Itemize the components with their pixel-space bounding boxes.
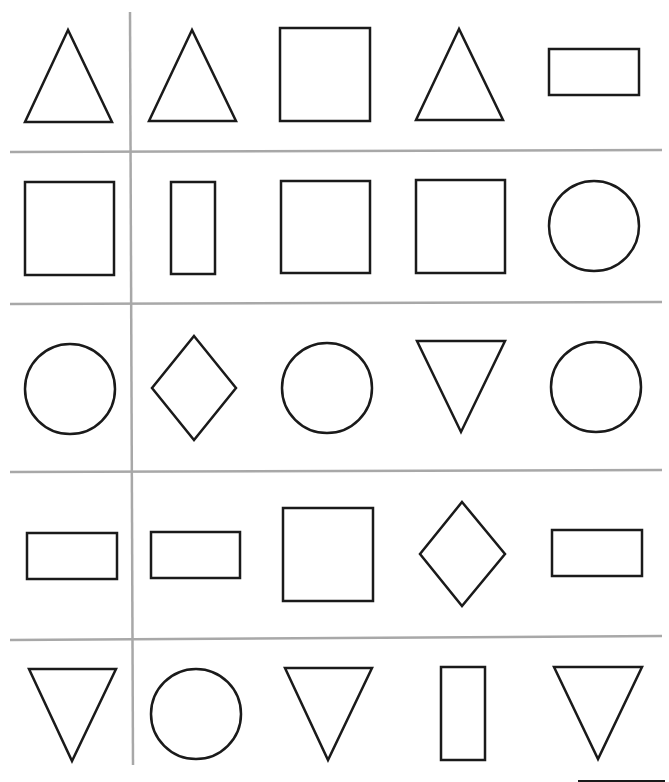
row-divider-4	[10, 636, 662, 640]
circle-shape	[282, 343, 372, 433]
triangle-down-shape	[554, 667, 642, 759]
triangle-down-shape	[29, 669, 116, 761]
square-shape	[280, 28, 370, 121]
rectangle-shape	[151, 532, 240, 578]
worksheet-canvas	[0, 0, 669, 782]
rectangle-shape	[27, 533, 117, 579]
rectangle-shape	[549, 49, 639, 95]
row-divider-2	[10, 302, 662, 304]
row-divider-1	[10, 150, 662, 152]
triangle-down-shape	[285, 668, 372, 760]
triangle-up-shape	[416, 29, 503, 120]
rectangle-shape	[552, 530, 642, 576]
diamond-shape	[420, 502, 505, 606]
rectangle-tall-shape	[171, 182, 215, 274]
row-divider-3	[10, 470, 662, 472]
circle-shape	[549, 181, 639, 271]
grid-lines	[10, 12, 662, 765]
vertical-divider	[130, 12, 133, 765]
triangle-up-shape	[149, 30, 236, 121]
diamond-shape	[152, 336, 236, 440]
triangle-down-shape	[417, 341, 505, 432]
circle-shape	[551, 342, 641, 432]
square-shape	[281, 181, 370, 273]
circle-shape	[25, 344, 115, 434]
square-shape	[25, 182, 114, 275]
square-shape	[416, 180, 505, 273]
square-shape	[283, 508, 373, 601]
rectangle-tall-shape	[441, 667, 485, 760]
triangle-up-shape	[25, 30, 112, 122]
circle-shape	[151, 669, 241, 759]
